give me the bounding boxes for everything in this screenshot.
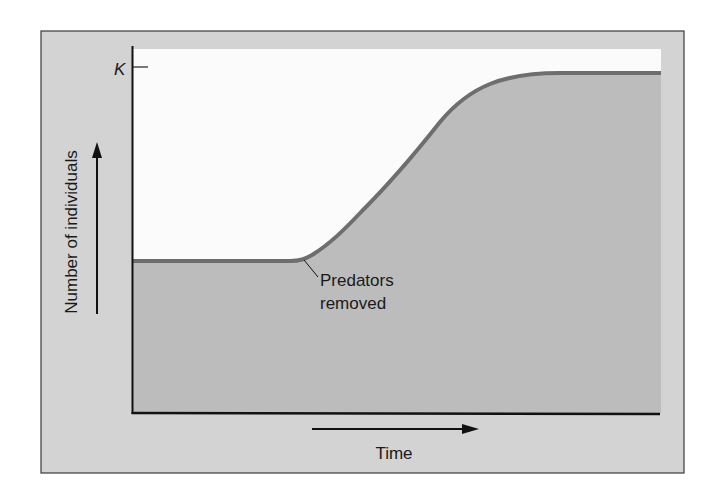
logistic-growth-figure: K Number of individuals Time Predators r… [0, 0, 713, 499]
annotation-line1: Predators [320, 271, 394, 290]
x-axis-label: Time [375, 444, 412, 463]
k-label: K [114, 60, 126, 79]
x-axis [132, 413, 661, 414]
y-axis-label: Number of individuals [62, 150, 81, 313]
annotation-line2: removed [320, 294, 386, 313]
